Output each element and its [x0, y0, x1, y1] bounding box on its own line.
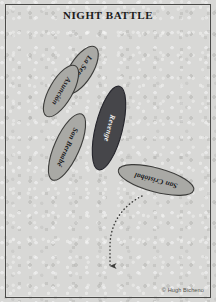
ship-san-cristobal[interactable]: San Cristóbal [115, 158, 197, 201]
battle-diagram: La Serena Asunción San Bernabé Revenge S… [0, 0, 216, 302]
ship-positions-svg: La Serena Asunción San Bernabé Revenge S… [0, 0, 216, 302]
night-battle-plate: NIGHT BATTLE La Serena Asunción San Be [0, 0, 216, 302]
ship-san-bernabe[interactable]: San Bernabé [41, 109, 93, 185]
copyright-credit: © Hugh Bicheno [162, 287, 204, 293]
ship-revenge[interactable]: Revenge [85, 83, 132, 173]
ship-asuncion[interactable]: Asunción [37, 60, 86, 122]
escape-course-path [110, 196, 142, 266]
